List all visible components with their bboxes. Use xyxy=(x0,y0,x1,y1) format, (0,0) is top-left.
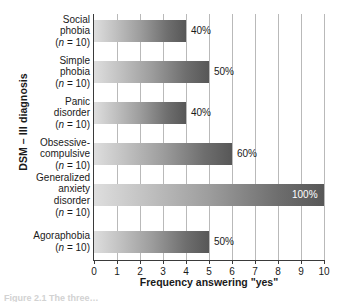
bar-value-label: 100% xyxy=(292,190,318,200)
category-label-line: Obsessive- xyxy=(0,137,90,149)
y-axis-line xyxy=(93,14,94,260)
gridline xyxy=(140,14,141,260)
category-label-line: Simple xyxy=(0,55,90,67)
category-sample-size: (n = 10) xyxy=(0,78,90,90)
category-label-line: Agoraphobia xyxy=(0,230,90,242)
bar[interactable] xyxy=(94,143,232,165)
x-axis-tick xyxy=(255,260,256,264)
x-axis-tick xyxy=(186,260,187,264)
bar-chart-figure: DSM – III diagnosis 01234567891040%50%40… xyxy=(0,0,341,302)
x-axis-tick xyxy=(209,260,210,264)
x-axis-tick xyxy=(232,260,233,264)
bar[interactable] xyxy=(94,102,186,124)
gridline xyxy=(255,14,256,260)
bar-row: 40% xyxy=(94,102,324,124)
category-sample-size: (n = 10) xyxy=(0,207,90,219)
figure-caption-cropped: Figure 2.1 The three… xyxy=(4,293,99,302)
category-label-line: Generalized xyxy=(0,172,90,184)
gridline xyxy=(117,14,118,260)
category-label: Generalizedanxietydisorder(n = 10) xyxy=(0,172,90,218)
x-axis-tick xyxy=(324,260,325,264)
bar[interactable] xyxy=(94,61,209,83)
gridline xyxy=(324,14,325,260)
category-sample-size: (n = 10) xyxy=(0,160,90,172)
bar-value-label: 50% xyxy=(214,237,234,247)
bar[interactable] xyxy=(94,20,186,42)
category-label-line: disorder xyxy=(0,195,90,207)
category-label-line: Panic xyxy=(0,96,90,108)
category-label-line: compulsive xyxy=(0,148,90,160)
bar-value-label: 40% xyxy=(191,108,211,118)
category-label-line: disorder xyxy=(0,107,90,119)
gridline xyxy=(186,14,187,260)
category-sample-size: (n = 10) xyxy=(0,242,90,254)
category-label-line: anxiety xyxy=(0,183,90,195)
x-axis-tick xyxy=(278,260,279,264)
category-sample-size: (n = 10) xyxy=(0,37,90,49)
bar-value-label: 50% xyxy=(214,67,234,77)
bar[interactable] xyxy=(94,184,324,206)
bar-row: 60% xyxy=(94,143,324,165)
x-axis-tick xyxy=(117,260,118,264)
x-axis-tick xyxy=(163,260,164,264)
category-label-line: phobia xyxy=(0,66,90,78)
gridline xyxy=(278,14,279,260)
category-label: Agoraphobia(n = 10) xyxy=(0,230,90,253)
category-label-line: Social xyxy=(0,14,90,26)
bar-row: 40% xyxy=(94,20,324,42)
gridline xyxy=(301,14,302,260)
category-label: Obsessive-compulsive(n = 10) xyxy=(0,137,90,172)
category-label: Socialphobia(n = 10) xyxy=(0,14,90,49)
plot-area: 01234567891040%50%40%60%100%50% xyxy=(94,14,324,260)
category-label: Simplephobia(n = 10) xyxy=(0,55,90,90)
gridline xyxy=(209,14,210,260)
bar-row: 50% xyxy=(94,61,324,83)
x-axis-tick xyxy=(94,260,95,264)
gridline xyxy=(232,14,233,260)
x-axis-tick xyxy=(140,260,141,264)
bar-value-label: 60% xyxy=(237,149,257,159)
x-axis-tick xyxy=(301,260,302,264)
bar-row: 50% xyxy=(94,231,324,253)
category-label-line: phobia xyxy=(0,25,90,37)
bar[interactable] xyxy=(94,231,209,253)
bar-row: 100% xyxy=(94,184,324,206)
category-label: Panicdisorder(n = 10) xyxy=(0,96,90,131)
category-sample-size: (n = 10) xyxy=(0,119,90,131)
x-axis-title: Frequency answering "yes" xyxy=(94,276,324,288)
bar-value-label: 40% xyxy=(191,26,211,36)
gridline xyxy=(163,14,164,260)
